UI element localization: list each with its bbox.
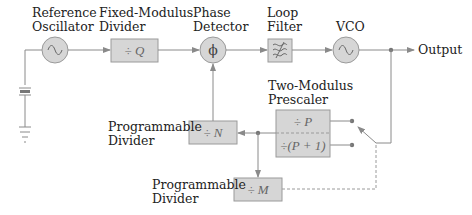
loop-filter-label: Loop Filter	[267, 6, 302, 34]
crystal-icon	[19, 50, 42, 127]
divide-p-label: ÷ P	[294, 114, 312, 129]
divide-n-label: ÷ N	[203, 125, 223, 140]
programmable-divider-n-label: Programmable Divider	[108, 120, 202, 148]
ground-icon	[19, 127, 31, 142]
fixed-modulus-divider-block: ÷ Q	[111, 39, 158, 62]
phase-detector: ϕ	[200, 37, 226, 63]
reference-oscillator	[42, 37, 68, 63]
vco-label: VCO	[336, 20, 365, 34]
output-label: Output	[418, 43, 462, 57]
reference-oscillator-label: Reference Oscillator	[32, 6, 97, 34]
loop-filter-block	[268, 39, 292, 62]
divide-q-label: ÷ Q	[125, 43, 145, 58]
divide-p-plus-1-label: ÷(P + 1)	[280, 138, 325, 153]
switch-icon	[350, 119, 376, 147]
programmable-divider-m-label: Programmable Divider	[152, 178, 246, 206]
divide-m-label: ÷ M	[247, 182, 269, 197]
phase-symbol: ϕ	[208, 42, 218, 58]
phase-detector-label: Phase Detector	[193, 6, 248, 34]
two-modulus-prescaler-block: ÷ P ÷(P + 1)	[276, 110, 330, 157]
fixed-modulus-divider-label: Fixed-Modulus Divider	[99, 6, 193, 34]
vco	[333, 37, 359, 63]
two-modulus-prescaler-label: Two-Modulus Prescaler	[268, 79, 353, 107]
